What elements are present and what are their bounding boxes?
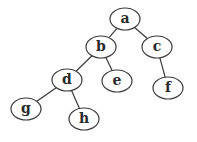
node-f: f (153, 77, 183, 99)
node-d: d (52, 69, 82, 91)
node-label: d (62, 71, 72, 87)
tree-diagram: abcdefgh (0, 0, 197, 142)
node-label: c (153, 38, 162, 54)
node-label: g (21, 100, 31, 116)
node-label: a (120, 10, 129, 26)
node-label: e (113, 72, 122, 88)
edge-b-e (106, 57, 112, 70)
edge-d-h (72, 90, 80, 108)
node-a: a (110, 8, 140, 30)
node-label: b (96, 38, 106, 54)
node-g: g (11, 98, 41, 120)
edge-d-g (37, 88, 56, 102)
node-label: f (165, 79, 172, 95)
node-b: b (86, 36, 116, 58)
node-h: h (69, 108, 99, 130)
node-e: e (102, 70, 132, 92)
node-label: h (79, 110, 89, 126)
node-c: c (142, 36, 172, 58)
edge-c-f (160, 58, 165, 77)
edge-b-d (76, 56, 92, 71)
edge-a-b (109, 28, 117, 37)
edge-a-c (135, 27, 148, 38)
